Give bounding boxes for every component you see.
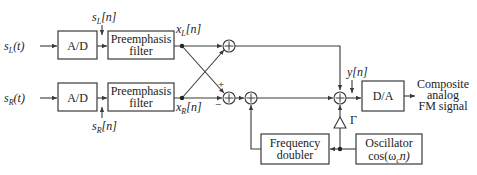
sl-n-label: sL[n]	[92, 10, 117, 26]
svg-text:xR[n]: xR[n]	[175, 100, 202, 116]
modulator-summer	[245, 92, 257, 104]
block-diagram: sL(t) A/D sL[n] Preemphasis filter xL[n]…	[0, 0, 477, 175]
summer-bottom	[223, 92, 235, 104]
svg-text:filter: filter	[129, 44, 152, 58]
svg-text:sL(t): sL(t)	[4, 39, 24, 55]
svg-text:filter: filter	[129, 96, 152, 110]
preemphasis-filter-top: Preemphasis filter	[108, 31, 174, 59]
oscillator-block: Oscillator cos(ωcn)	[356, 134, 422, 165]
xl-n-label: xL[n]	[175, 22, 201, 38]
input-right-label: sR(t)	[4, 91, 25, 107]
input-left-label: sL(t)	[4, 39, 24, 55]
junction-dot-osc	[338, 147, 342, 151]
svg-text:sL[n]: sL[n]	[92, 10, 117, 26]
svg-text:A/D: A/D	[67, 39, 88, 53]
svg-text:sR[n]: sR[n]	[92, 119, 117, 135]
gain-amplifier-triangle	[334, 117, 346, 128]
preemphasis-filter-bottom: Preemphasis filter	[108, 83, 174, 111]
minus-sign: −	[215, 98, 221, 110]
svg-text:FM signal: FM signal	[418, 99, 468, 113]
svg-text:sR(t): sR(t)	[4, 91, 25, 107]
svg-text:cos(ωcn): cos(ωcn)	[368, 149, 409, 165]
wire-sum-to-main-summer	[235, 46, 340, 90]
wire-xr-to-sum1	[182, 50, 224, 98]
plus-sign: +	[218, 78, 224, 90]
sr-n-label: sR[n]	[92, 119, 117, 135]
svg-text:doubler: doubler	[277, 148, 314, 162]
xr-n-label: xR[n]	[175, 100, 202, 116]
wire-doubler-to-mod	[251, 105, 261, 149]
output-label: Composite analog FM signal	[417, 77, 469, 113]
summer-main	[334, 92, 346, 104]
y-n-label: y[n]	[346, 65, 368, 79]
ad-top-block: A/D	[58, 31, 97, 59]
svg-text:A/D: A/D	[67, 91, 88, 105]
svg-text:D/A: D/A	[373, 89, 394, 103]
da-block: D/A	[362, 81, 404, 111]
frequency-doubler-block: Frequency doubler	[261, 134, 329, 164]
svg-text:Oscillator: Oscillator	[365, 136, 412, 150]
summer-top	[223, 40, 235, 52]
gamma-label: Γ	[350, 113, 357, 127]
ad-bottom-block: A/D	[58, 83, 97, 111]
svg-text:xL[n]: xL[n]	[175, 22, 201, 38]
